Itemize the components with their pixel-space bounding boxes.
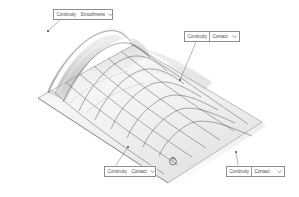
screenshot-root: Continuity Smoothness Continuity Contact…	[0, 0, 299, 197]
continuity-value[interactable]: Contact	[129, 167, 148, 176]
continuity-value[interactable]: Contact	[210, 32, 230, 41]
continuity-callout-bottom-right[interactable]: Continuity Contact	[226, 166, 285, 177]
3d-surface-viewport[interactable]: Continuity Smoothness Continuity Contact…	[0, 0, 299, 197]
leader-point-bottom-right	[235, 151, 237, 153]
continuity-callout-top-left[interactable]: Continuity Smoothness	[53, 9, 113, 20]
continuity-label: Continuity	[105, 167, 129, 176]
continuity-callout-bottom-mid[interactable]: Continuity Contact	[104, 166, 156, 177]
continuity-value[interactable]: Smoothness	[78, 10, 106, 19]
leader-point-top-right	[179, 79, 181, 81]
continuity-label: Continuity	[227, 167, 251, 176]
leader-point-bottom-mid	[127, 146, 129, 148]
chevron-down-icon[interactable]	[106, 10, 115, 19]
leader-line-top-left	[48, 20, 60, 31]
chevron-down-icon[interactable]	[148, 167, 157, 176]
continuity-label: Continuity	[185, 32, 209, 41]
leader-line-bottom-right	[236, 152, 238, 165]
continuity-callout-top-right[interactable]: Continuity Contact	[184, 31, 240, 42]
chevron-down-icon[interactable]	[230, 32, 239, 41]
continuity-label: Continuity	[54, 10, 78, 19]
leader-point-top-left	[47, 30, 49, 32]
continuity-value[interactable]: Contact	[252, 167, 275, 176]
chevron-down-icon[interactable]	[275, 167, 284, 176]
